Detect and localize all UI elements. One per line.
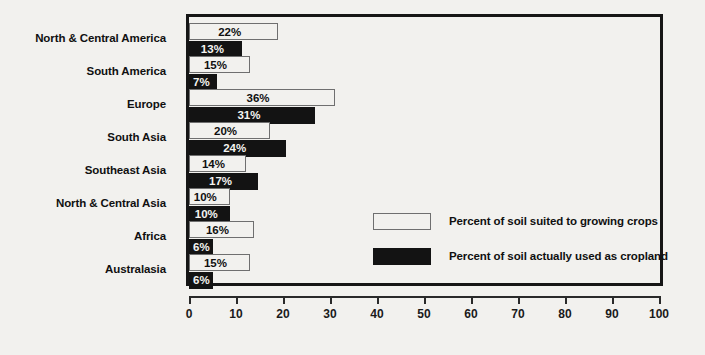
- bar-value-label: 10%: [190, 189, 221, 206]
- category-label: Africa: [0, 230, 166, 242]
- bar-value-label: 22%: [190, 24, 269, 41]
- x-axis-tick-label: 70: [498, 307, 538, 321]
- x-axis-tick-label: 90: [592, 307, 632, 321]
- category-axis-labels: North & Central AmericaSouth AmericaEuro…: [0, 14, 176, 286]
- x-axis-tick: [565, 296, 567, 304]
- x-axis-tick: [283, 296, 285, 304]
- bar-suited: 15%: [189, 56, 250, 73]
- legend-label: Percent of soil actually used as croplan…: [449, 248, 668, 265]
- x-axis-tick: [330, 296, 332, 304]
- legend-label: Percent of soil suited to growing crops: [449, 213, 658, 230]
- bar-suited: 15%: [189, 254, 250, 271]
- x-axis-tick: [471, 296, 473, 304]
- x-axis-tick: [377, 296, 379, 304]
- category-label: Australasia: [0, 263, 166, 275]
- x-axis-tick: [424, 296, 426, 304]
- x-axis-tick-label: 20: [263, 307, 303, 321]
- x-axis: 0102030405060708090100: [186, 296, 663, 336]
- category-label: Europe: [0, 98, 166, 110]
- x-axis-tick-label: 60: [451, 307, 491, 321]
- x-axis-tick-label: 30: [310, 307, 350, 321]
- bar-value-label: 15%: [190, 255, 241, 272]
- x-axis-tick: [612, 296, 614, 304]
- legend-swatch-cropland: [373, 248, 431, 265]
- bar-value-label: 15%: [190, 57, 241, 74]
- bar-value-label: 6%: [193, 272, 210, 289]
- x-axis-tick-label: 100: [639, 307, 679, 321]
- category-label: South Asia: [0, 131, 166, 143]
- category-label: Southeast Asia: [0, 164, 166, 176]
- bar-suited: 14%: [189, 155, 246, 172]
- category-label: South America: [0, 65, 166, 77]
- bar-suited: 22%: [189, 23, 278, 40]
- legend-swatch-suited: [373, 213, 431, 230]
- bar-value-label: 20%: [190, 123, 261, 140]
- bar-suited: 10%: [189, 188, 230, 205]
- x-axis-tick-label: 80: [545, 307, 585, 321]
- x-axis-tick: [236, 296, 238, 304]
- bars-container: 22%13%15%7%36%31%20%24%14%17%10%10%16%6%…: [189, 17, 660, 283]
- bar-suited: 20%: [189, 122, 270, 139]
- category-label: North & Central America: [0, 32, 166, 44]
- x-axis-tick: [189, 296, 191, 304]
- bar-value-label: 16%: [190, 222, 245, 239]
- bar-suited: 16%: [189, 221, 254, 238]
- x-axis-tick: [659, 296, 661, 304]
- x-axis-tick-label: 40: [357, 307, 397, 321]
- category-label: North & Central Asia: [0, 197, 166, 209]
- bar-cropland: 6%: [189, 272, 213, 289]
- x-axis-tick-label: 10: [216, 307, 256, 321]
- plot-area: 22%13%15%7%36%31%20%24%14%17%10%10%16%6%…: [186, 14, 663, 286]
- bar-suited: 36%: [189, 89, 335, 106]
- chart-page: North & Central AmericaSouth AmericaEuro…: [0, 0, 705, 355]
- bar-value-label: 14%: [190, 156, 237, 173]
- x-axis-tick: [518, 296, 520, 304]
- x-axis-tick-label: 0: [169, 307, 209, 321]
- bar-value-label: 36%: [190, 90, 326, 107]
- x-axis-tick-label: 50: [404, 307, 444, 321]
